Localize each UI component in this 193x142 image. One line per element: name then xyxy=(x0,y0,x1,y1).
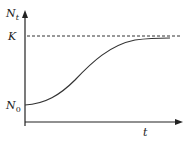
x-axis-label: t xyxy=(143,127,147,138)
y-axis-label: Nt xyxy=(6,8,19,22)
y-axis-arrow-icon xyxy=(22,10,28,18)
logistic-growth-chart: Nt K N0 t xyxy=(0,0,193,142)
chart-plot xyxy=(0,0,193,142)
growth-curve xyxy=(25,38,170,105)
x-axis-arrow-icon xyxy=(175,119,183,125)
n0-label: N0 xyxy=(6,100,21,114)
k-label: K xyxy=(8,31,16,42)
